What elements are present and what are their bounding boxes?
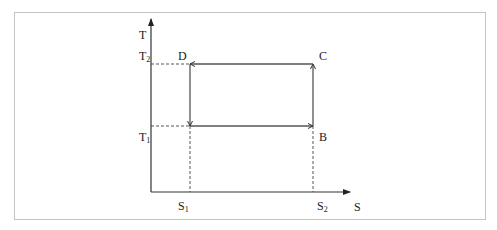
y-axis-label: T xyxy=(139,28,147,42)
s1-label: S1 xyxy=(178,199,189,214)
point-c-label: C xyxy=(319,49,327,63)
t2-label: T2 xyxy=(139,49,150,64)
dashed-guides xyxy=(151,64,313,192)
point-d-label: D xyxy=(178,49,187,63)
s2-label: S2 xyxy=(317,199,328,214)
cycle xyxy=(190,64,313,126)
t1-label: T1 xyxy=(139,130,150,145)
x-axis-label: S xyxy=(354,200,361,214)
ts-diagram: T S T2 T1 S1 S2 D C B xyxy=(0,0,497,230)
point-b-label: B xyxy=(319,130,327,144)
